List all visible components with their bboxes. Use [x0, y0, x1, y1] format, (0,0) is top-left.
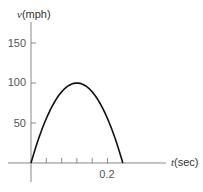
x-axis-unit: (sec) — [174, 156, 198, 168]
y-axis-unit: (mph) — [22, 8, 51, 20]
velocity-curve — [31, 83, 123, 163]
y-tick-label-50: 50 — [14, 117, 26, 129]
velocity-chart: 150 100 50 0.2 v(mph) t(sec) — [0, 0, 203, 192]
y-tick-label-150: 150 — [8, 37, 26, 49]
y-tick-label-100: 100 — [8, 76, 26, 88]
x-ticks — [46, 158, 107, 163]
x-tick-label-0.2: 0.2 — [99, 168, 114, 180]
x-axis-label: t(sec) — [171, 156, 199, 168]
y-ticks — [31, 43, 36, 123]
y-axis-label: v(mph) — [17, 8, 51, 20]
